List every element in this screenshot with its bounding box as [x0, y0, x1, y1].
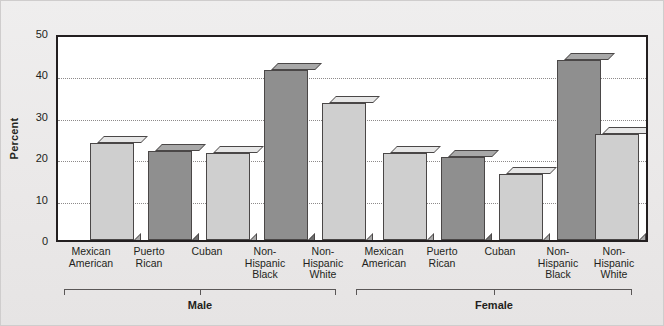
label-line-2: American	[353, 258, 415, 270]
bar-side	[543, 233, 550, 240]
label-line-1: Puerto	[118, 246, 180, 258]
bar-top	[602, 127, 646, 134]
label-line-1: Non-	[583, 246, 645, 258]
category-label-male-mexican-american: Mexican American	[60, 246, 122, 269]
label-line-1: Mexican	[60, 246, 122, 258]
bar-face	[499, 174, 543, 240]
bar-face	[383, 153, 427, 240]
label-line-1: Puerto	[411, 246, 473, 258]
bracket-center-nub	[200, 289, 201, 295]
label-line-1: Cuban	[469, 246, 531, 258]
group-bracket-female	[356, 289, 632, 298]
bar-top	[213, 146, 264, 153]
category-label-female-non-hispanic-black: Non- Hispanic Black	[527, 246, 589, 281]
bar-side	[192, 233, 199, 240]
y-tick-0: 0	[22, 235, 48, 247]
bracket-tip-right	[335, 289, 336, 295]
plot-area	[58, 37, 646, 240]
bar-top	[155, 144, 206, 151]
group-label-female: Female	[356, 299, 632, 311]
bar-top	[271, 63, 322, 70]
bar-side	[250, 233, 257, 240]
chart-figure: Percent 50 40 30 20 10 0	[0, 0, 664, 326]
label-line-3: White	[292, 269, 354, 281]
label-line-1: Non-	[292, 246, 354, 258]
y-tick-20: 20	[22, 152, 48, 164]
bar-top	[390, 146, 441, 153]
category-label-female-puerto-rican: Puerto Rican	[411, 246, 473, 269]
label-line-1: Mexican	[353, 246, 415, 258]
bar-top	[506, 167, 557, 174]
bar-face	[595, 134, 639, 240]
label-line-2: American	[60, 258, 122, 270]
bracket-tip-left	[64, 289, 65, 295]
group-bracket-male	[64, 289, 336, 298]
bar-face	[441, 157, 485, 240]
label-line-1: Non-	[527, 246, 589, 258]
bar-top	[564, 53, 615, 60]
bar-top	[329, 96, 380, 103]
label-line-3: Black	[234, 269, 296, 281]
label-line-2: Rican	[411, 258, 473, 270]
y-tick-30: 30	[22, 111, 48, 123]
label-line-3: Black	[527, 269, 589, 281]
bar-side	[366, 233, 373, 240]
category-label-female-non-hispanic-white: Non- Hispanic White	[583, 246, 645, 281]
group-label-male: Male	[64, 299, 336, 311]
bar-face	[90, 143, 134, 240]
bracket-center-nub	[494, 289, 495, 295]
plot-frame	[56, 35, 648, 242]
bar-side	[485, 233, 492, 240]
bracket-tip-right	[631, 289, 632, 295]
bar-side	[134, 233, 141, 240]
bar-face	[264, 70, 308, 240]
bar-face	[322, 103, 366, 240]
bar-face	[206, 153, 250, 240]
bar-side	[308, 233, 315, 240]
bar-top	[97, 136, 148, 143]
category-label-male-non-hispanic-black: Non- Hispanic Black	[234, 246, 296, 281]
label-line-1: Non-	[234, 246, 296, 258]
category-label-female-mexican-american: Mexican American	[353, 246, 415, 269]
y-tick-50: 50	[22, 28, 48, 40]
label-line-1: Cuban	[176, 246, 238, 258]
category-label-male-non-hispanic-white: Non- Hispanic White	[292, 246, 354, 281]
bar-top	[448, 150, 499, 157]
bar-side	[639, 233, 646, 240]
category-label-male-puerto-rican: Puerto Rican	[118, 246, 180, 269]
bar-face	[148, 151, 192, 240]
label-line-3: White	[583, 269, 645, 281]
category-label-male-cuban: Cuban	[176, 246, 238, 258]
bar-side	[427, 233, 434, 240]
bracket-tip-left	[356, 289, 357, 295]
y-tick-40: 40	[22, 69, 48, 81]
category-label-female-cuban: Cuban	[469, 246, 531, 258]
y-tick-10: 10	[22, 194, 48, 206]
label-line-2: Rican	[118, 258, 180, 270]
